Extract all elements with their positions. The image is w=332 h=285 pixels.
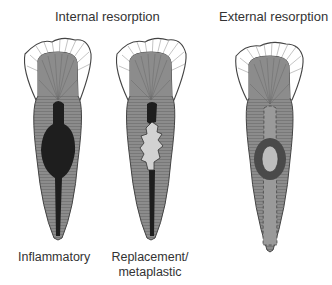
tooth-external bbox=[236, 42, 303, 252]
caption-replacement-line2: metaplastic bbox=[110, 265, 190, 280]
resorption-center bbox=[262, 146, 278, 172]
caption-inflammatory: Inflammatory bbox=[18, 250, 90, 265]
caption-replacement: Replacement/ metaplastic bbox=[110, 250, 190, 280]
tooth-replacement bbox=[116, 38, 186, 240]
caption-replacement-line1: Replacement/ bbox=[110, 250, 190, 265]
diagram-canvas bbox=[0, 0, 332, 285]
tooth-inflammatory bbox=[24, 38, 91, 240]
